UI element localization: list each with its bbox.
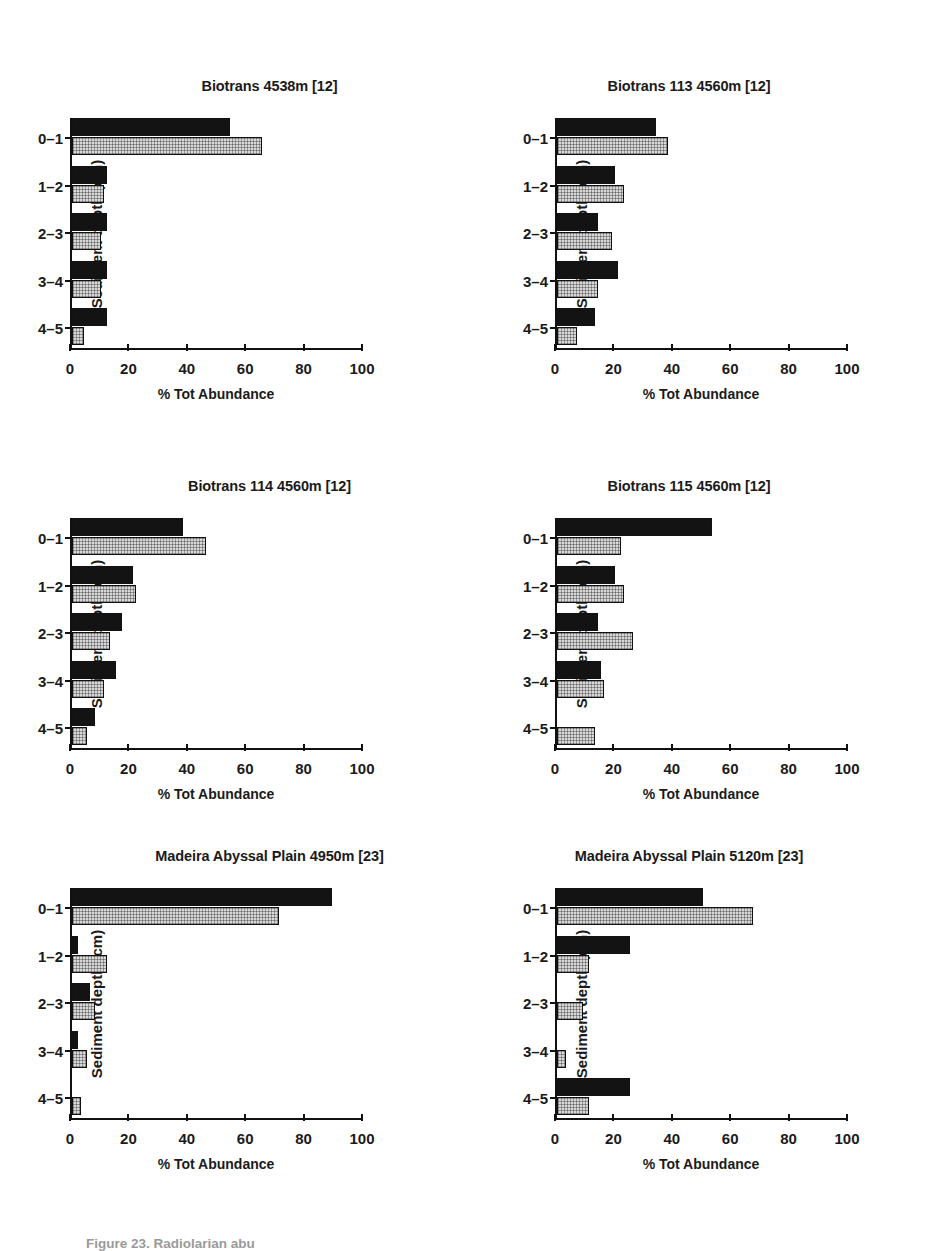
y-axis-tick <box>550 955 557 957</box>
bar-light <box>557 585 624 603</box>
bar-row: 1–2 <box>72 566 422 606</box>
bar-dark <box>72 613 122 631</box>
x-axis-tick-label: 0 <box>551 360 559 377</box>
x-axis-tick-label: 100 <box>349 1130 374 1147</box>
bar-dark <box>557 118 656 136</box>
bar-light <box>72 185 104 203</box>
x-axis-tick <box>554 744 556 751</box>
bar-row: 1–2 <box>557 566 907 606</box>
bar-light <box>72 280 101 298</box>
y-axis-tick-label: 1–2 <box>38 947 63 964</box>
y-axis-tick-label: 1–2 <box>523 177 548 194</box>
bar-row: 4–5 <box>557 1078 907 1118</box>
x-axis-tick-label: 40 <box>178 360 195 377</box>
x-axis-tick <box>69 744 71 751</box>
y-axis-tick <box>65 955 72 957</box>
bar-dark <box>72 308 107 326</box>
y-axis-tick <box>550 632 557 634</box>
y-axis-tick-label: 2–3 <box>38 995 63 1012</box>
x-axis-tick-label: 60 <box>722 360 739 377</box>
bar-row: 2–3 <box>72 613 422 653</box>
y-axis-tick-label: 4–5 <box>38 720 63 737</box>
y-axis-tick-label: 1–2 <box>523 947 548 964</box>
x-axis-tick-label: 40 <box>178 760 195 777</box>
y-axis-tick-label: 2–3 <box>523 225 548 242</box>
x-axis-tick-label: 0 <box>66 360 74 377</box>
figure-caption: Figure 23. Radiolarian abu <box>86 1236 255 1251</box>
y-axis-tick <box>550 907 557 909</box>
y-axis-tick-label: 2–3 <box>38 225 63 242</box>
x-axis-line <box>555 1118 847 1120</box>
x-axis-tick-label: 80 <box>780 760 797 777</box>
y-axis-tick-label: 3–4 <box>523 1042 548 1059</box>
bar-rows: 0–11–22–33–44–5 <box>557 888 907 1118</box>
y-axis-tick <box>65 632 72 634</box>
x-axis-tick-label: 60 <box>237 360 254 377</box>
x-axis-tick-label: 60 <box>722 760 739 777</box>
bar-row: 2–3 <box>557 613 907 653</box>
y-axis-tick <box>65 1097 72 1099</box>
chart-panel: Biotrans 114 4560m [12]Sediment depth (c… <box>0 456 465 826</box>
x-axis-tick <box>554 1114 556 1121</box>
x-axis-tick-label: 100 <box>834 360 859 377</box>
chart-title: Biotrans 114 4560m [12] <box>0 478 465 494</box>
x-axis-tick-label: 80 <box>780 1130 797 1147</box>
y-axis-tick <box>65 327 72 329</box>
bar-dark <box>557 661 601 679</box>
plot-area: Sediment depth (cm)0204060801000–11–22–3… <box>555 888 907 1120</box>
bar-rows: 0–11–22–33–44–5 <box>557 518 907 748</box>
bar-rows: 0–11–22–33–44–5 <box>72 518 422 748</box>
bar-row: 3–4 <box>72 1031 422 1071</box>
y-axis-tick-label: 1–2 <box>38 577 63 594</box>
y-axis-tick <box>65 137 72 139</box>
bar-row: 3–4 <box>72 261 422 301</box>
y-axis-tick-label: 1–2 <box>523 577 548 594</box>
bar-row: 3–4 <box>557 261 907 301</box>
bar-row: 1–2 <box>72 166 422 206</box>
x-axis-tick-label: 100 <box>349 360 374 377</box>
x-axis-tick-label: 20 <box>605 360 622 377</box>
bar-dark <box>557 1078 630 1096</box>
bar-row: 1–2 <box>557 936 907 976</box>
y-axis-tick <box>550 1097 557 1099</box>
x-axis-line <box>70 748 362 750</box>
bar-row: 4–5 <box>72 708 422 748</box>
x-axis-line <box>70 1118 362 1120</box>
bar-dark <box>72 661 116 679</box>
y-axis-tick-label: 3–4 <box>38 1042 63 1059</box>
bar-dark <box>72 1031 78 1049</box>
bar-light <box>557 727 595 745</box>
y-axis-tick <box>65 585 72 587</box>
y-axis-tick-label: 3–4 <box>38 672 63 689</box>
bar-dark <box>557 261 618 279</box>
bar-dark <box>557 518 712 536</box>
x-axis-tick-label: 40 <box>663 1130 680 1147</box>
y-axis-tick-label: 4–5 <box>38 1090 63 1107</box>
y-axis-tick <box>65 907 72 909</box>
x-axis-tick <box>554 344 556 351</box>
x-axis-label: % Tot Abundance <box>555 386 847 402</box>
x-axis-tick-label: 40 <box>178 1130 195 1147</box>
plot-area: Sediment depth (cm)0204060801000–11–22–3… <box>70 888 422 1120</box>
bar-dark <box>72 518 183 536</box>
y-axis-tick <box>550 280 557 282</box>
x-axis-tick <box>69 344 71 351</box>
bar-light <box>72 537 206 555</box>
y-axis-tick <box>65 280 72 282</box>
bar-row: 0–1 <box>557 118 907 158</box>
x-axis-tick-label: 60 <box>237 1130 254 1147</box>
x-axis-tick <box>69 1114 71 1121</box>
y-axis-tick <box>65 680 72 682</box>
bar-dark <box>72 118 230 136</box>
bar-row: 4–5 <box>72 308 422 348</box>
bar-dark <box>557 888 703 906</box>
bar-dark <box>72 566 133 584</box>
bar-light <box>72 137 262 155</box>
bar-dark <box>72 983 90 1001</box>
x-axis-tick-label: 80 <box>295 760 312 777</box>
x-axis-tick-label: 80 <box>295 360 312 377</box>
y-axis-tick <box>550 1002 557 1004</box>
x-axis-tick-label: 60 <box>237 760 254 777</box>
y-axis-tick <box>550 1050 557 1052</box>
y-axis-tick <box>65 1050 72 1052</box>
